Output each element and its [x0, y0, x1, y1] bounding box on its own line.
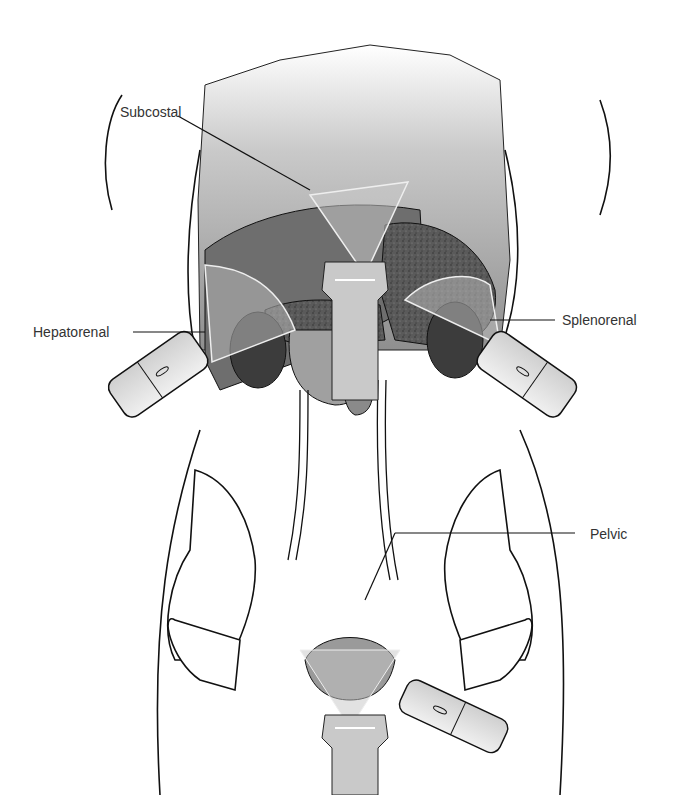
- anatomy-illustration: [0, 0, 683, 795]
- fast-exam-diagram: Subcostal Hepatorenal Splenorenal Pelvic: [0, 0, 683, 795]
- label-subcostal: Subcostal: [120, 104, 181, 120]
- splenorenal-probe: [473, 328, 580, 421]
- label-splenorenal: Splenorenal: [562, 312, 637, 328]
- label-hepatorenal: Hepatorenal: [33, 324, 109, 340]
- subcostal-probe: [322, 262, 388, 400]
- label-pelvic: Pelvic: [590, 526, 627, 542]
- hepatorenal-probe: [105, 328, 212, 421]
- vessels: [288, 380, 398, 580]
- pelvic-probe-oblique: [396, 677, 511, 756]
